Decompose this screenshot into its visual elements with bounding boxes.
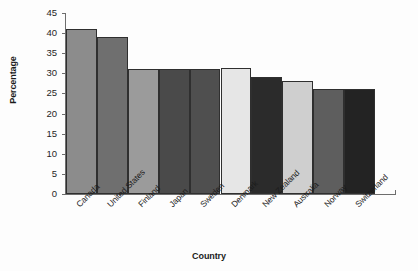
plot-area xyxy=(66,13,396,194)
y-axis-tick-label: 25 xyxy=(46,87,57,98)
bar xyxy=(159,69,190,194)
y-axis-tick-label: 30 xyxy=(46,67,57,78)
y-axis-tick-label: 15 xyxy=(46,128,57,139)
bar xyxy=(313,89,344,194)
bar xyxy=(190,69,221,194)
x-axis-title: Country xyxy=(0,251,418,261)
x-axis-tick-labels: CanadaUnited StatesFinlandJapanSwedenDen… xyxy=(0,196,418,251)
y-axis-tick-mark xyxy=(62,194,66,195)
bar-chart: Percentage 051015202530354045 CanadaUnit… xyxy=(0,0,418,271)
bar xyxy=(344,89,375,194)
y-axis-tick-label: 40 xyxy=(46,27,57,38)
bar xyxy=(66,29,97,194)
y-axis-tick-label: 45 xyxy=(46,7,57,18)
bar xyxy=(251,77,282,194)
y-axis-tick-label: 20 xyxy=(46,108,57,119)
y-axis-tick-label: 5 xyxy=(52,168,57,179)
y-axis-tick-label: 35 xyxy=(46,47,57,58)
bar xyxy=(221,68,252,194)
y-axis-title: Percentage xyxy=(8,40,18,120)
bar xyxy=(97,37,128,194)
y-axis-tick-label: 10 xyxy=(46,148,57,159)
